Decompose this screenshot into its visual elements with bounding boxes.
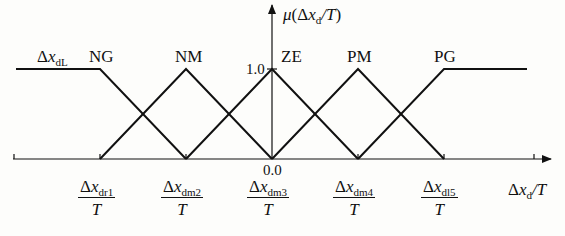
set-label-PM: PM bbox=[347, 48, 372, 65]
mf-NG bbox=[16, 69, 186, 159]
x-tick-label-2: Δxdm2 T bbox=[161, 178, 203, 218]
mf-PM bbox=[272, 69, 444, 159]
y-tick-label-1: 1.0 bbox=[246, 62, 265, 77]
x-axis-label: Δxd/T bbox=[508, 181, 546, 198]
mf-NM bbox=[100, 69, 272, 159]
y-axis-label: μ(Δxd/T) bbox=[283, 6, 341, 23]
x-tick-label-4: Δxdm4 T bbox=[333, 178, 375, 218]
set-label-NM: NM bbox=[175, 48, 202, 65]
left-limit-label: ΔxdL bbox=[37, 48, 68, 65]
x-tick-label-1: Δxdr1 T bbox=[78, 178, 115, 218]
set-label-ZE: ZE bbox=[281, 48, 302, 65]
set-label-PG: PG bbox=[434, 48, 456, 65]
mf-PG bbox=[358, 69, 527, 159]
x-tick-label-5: Δxdl5 T bbox=[421, 178, 458, 218]
origin-label: 0.0 bbox=[263, 163, 282, 178]
set-label-NG: NG bbox=[89, 48, 114, 65]
x-tick-label-3: Δxdm3 T bbox=[247, 178, 289, 218]
